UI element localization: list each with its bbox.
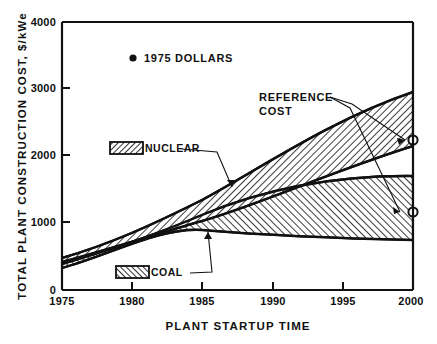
chart-figure: 4000 3000 2000 1000 0 1975 1980 1985 199… bbox=[0, 0, 437, 344]
y-tick-label-2000: 2000 bbox=[31, 149, 56, 161]
y-tick-label-4000: 4000 bbox=[31, 16, 56, 28]
y-tick-label-3000: 3000 bbox=[31, 82, 56, 94]
legend-item-coal: COAL bbox=[116, 266, 183, 278]
dollar-basis-label: 1975 DOLLARS bbox=[144, 52, 233, 64]
legend-item-nuclear: NUCLEAR bbox=[110, 142, 200, 154]
x-tick-label-1995: 1995 bbox=[330, 295, 355, 307]
plot-area bbox=[62, 92, 413, 268]
chart-canvas: 4000 3000 2000 1000 0 1975 1980 1985 199… bbox=[0, 0, 437, 344]
x-tick-label-1985: 1985 bbox=[189, 295, 214, 307]
x-axis-title: PLANT STARTUP TIME bbox=[165, 320, 310, 332]
reference-cost-annotation: REFERENCE COST bbox=[259, 91, 333, 117]
x-tick-label-2000: 2000 bbox=[398, 295, 423, 307]
coal-legend-label: COAL bbox=[151, 266, 183, 278]
x-axis-ticks bbox=[62, 282, 413, 290]
y-axis-ticks bbox=[62, 22, 70, 290]
y-tick-label-1000: 1000 bbox=[31, 216, 56, 228]
filled-circle-icon bbox=[129, 54, 136, 61]
dollar-basis-annotation: 1975 DOLLARS bbox=[129, 52, 233, 64]
coal-legend-swatch bbox=[116, 266, 149, 278]
x-tick-label-1975: 1975 bbox=[49, 295, 74, 307]
y-axis-title: TOTAL PLANT CONSTRUCTION COST, $/kWe bbox=[16, 12, 28, 299]
nuclear-legend-swatch bbox=[110, 142, 143, 154]
reference-cost-label-line2: COST bbox=[259, 105, 292, 117]
x-tick-labels: 1975 1980 1985 1990 1995 2000 bbox=[49, 295, 423, 307]
x-tick-label-1990: 1990 bbox=[260, 295, 285, 307]
x-tick-label-1980: 1980 bbox=[119, 295, 144, 307]
nuclear-legend-label: NUCLEAR bbox=[145, 142, 200, 154]
reference-cost-label-line1: REFERENCE bbox=[259, 91, 333, 103]
y-tick-labels: 4000 3000 2000 1000 0 bbox=[31, 16, 56, 296]
nuclear-leader bbox=[182, 149, 232, 187]
